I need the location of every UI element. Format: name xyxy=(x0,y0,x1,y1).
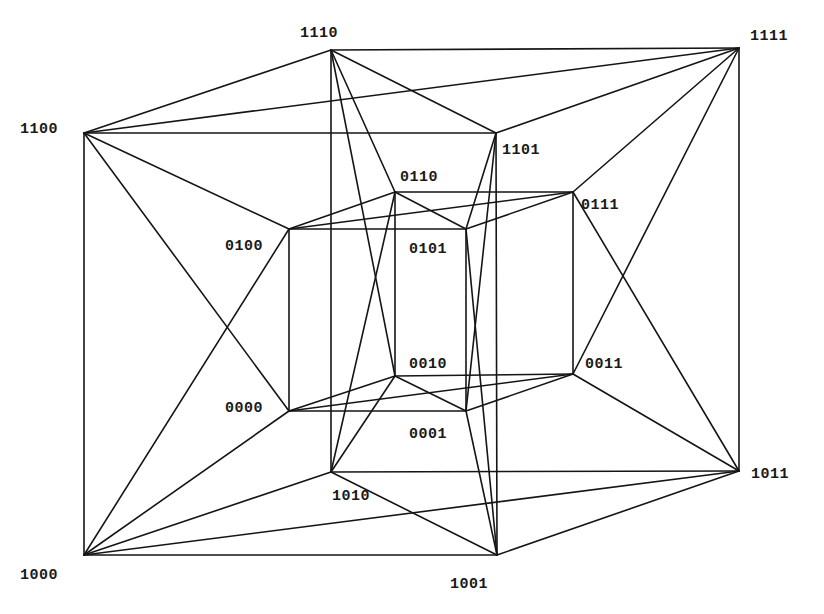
edges-layer xyxy=(84,48,739,555)
vertex-label-1100: 1100 xyxy=(20,121,58,138)
edge-1100-1111 xyxy=(84,48,739,133)
vertex-label-1010: 1010 xyxy=(332,488,370,505)
vertex-label-1011: 1011 xyxy=(751,466,789,483)
edge-1010-1000 xyxy=(84,472,331,555)
edge-0010-0001 xyxy=(395,376,466,411)
vertex-label-0001: 0001 xyxy=(409,426,447,443)
edge-0110-0100 xyxy=(289,192,395,229)
vertex-label-0011: 0011 xyxy=(585,356,623,373)
edge-1010-1001 xyxy=(331,472,497,555)
edge-1000-0100 xyxy=(84,229,289,555)
edge-1001-1011 xyxy=(497,471,739,555)
vertex-label-0111: 0111 xyxy=(581,197,619,214)
edge-1010-1011 xyxy=(331,471,739,472)
vertex-label-1001: 1001 xyxy=(450,576,488,593)
vertex-label-0100: 0100 xyxy=(225,238,263,255)
edge-0010-0011 xyxy=(395,374,573,376)
edge-0101-0111 xyxy=(466,192,573,229)
vertex-label-0000: 0000 xyxy=(225,400,263,417)
vertex-label-1101: 1101 xyxy=(502,142,540,159)
edge-1110-1100 xyxy=(84,50,331,133)
edge-1011-0011 xyxy=(573,374,739,471)
vertex-label-1111: 1111 xyxy=(750,28,788,45)
edge-1111-0111 xyxy=(573,48,739,192)
vertex-label-0101: 0101 xyxy=(409,241,447,258)
edge-1001-0001 xyxy=(466,411,497,555)
vertex-labels-layer: 1110111111001101011001110100010100100011… xyxy=(20,25,789,593)
edge-1110-1111 xyxy=(331,48,739,50)
edge-0010-0000 xyxy=(289,376,395,411)
edge-1101-1001 xyxy=(496,133,497,555)
vertex-label-1000: 1000 xyxy=(20,567,58,584)
edge-1100-0000 xyxy=(84,133,289,411)
edge-1010-0010 xyxy=(331,376,395,472)
vertex-label-1110: 1110 xyxy=(300,25,338,42)
vertex-label-0110: 0110 xyxy=(400,169,438,186)
edge-1000-1011 xyxy=(84,471,739,555)
edge-1110-0110 xyxy=(331,50,395,192)
edge-1110-1101 xyxy=(331,50,496,133)
augmented-cube-diagram: 1110111111001101011001110100010100100011… xyxy=(0,0,824,614)
vertex-label-0010: 0010 xyxy=(409,356,447,373)
edge-1110-0010 xyxy=(331,50,395,376)
edge-1100-0100 xyxy=(84,133,289,229)
edge-1011-0111 xyxy=(573,192,739,471)
edge-1010-0110 xyxy=(331,192,395,472)
